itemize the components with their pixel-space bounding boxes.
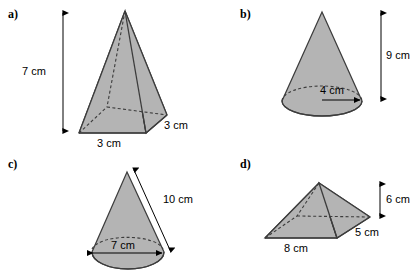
panel-d-drawing	[0, 0, 415, 272]
dim-d-base-side: 5 cm	[355, 227, 379, 238]
geometry-figure-page: a) 7 c	[0, 0, 415, 272]
dim-d-height: 6 cm	[386, 194, 410, 205]
dim-d-base-front: 8 cm	[284, 243, 308, 254]
